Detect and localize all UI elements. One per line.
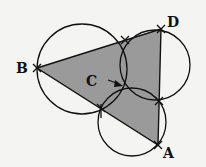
label-a: A [162, 145, 175, 161]
label-d: D [167, 14, 179, 30]
geometry-diagram: B D A C [0, 0, 206, 167]
label-c: C [86, 73, 97, 89]
label-b: B [16, 60, 28, 76]
